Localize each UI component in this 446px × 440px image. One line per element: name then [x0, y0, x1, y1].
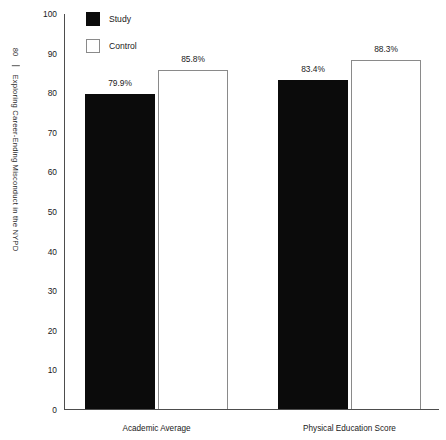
legend-label-study: Study	[109, 14, 131, 24]
legend-swatch-study	[86, 12, 100, 26]
y-axis-tick-label: 60	[31, 167, 57, 177]
y-axis-tick-label: 30	[31, 286, 57, 296]
data-label-study-0: 79.9%	[108, 78, 132, 88]
data-label-control-1: 88.3%	[374, 44, 398, 54]
y-axis-tick-label: 90	[31, 49, 57, 59]
running-head-divider	[12, 65, 20, 66]
legend-item-study: Study	[86, 12, 137, 26]
running-head: 80 Exploring Career-Ending Misconduct in…	[2, 145, 30, 395]
bar-study-0	[85, 94, 155, 410]
y-axis-tick-label: 20	[31, 326, 57, 336]
y-axis-line	[64, 14, 65, 410]
bar-control-1	[351, 60, 421, 410]
page-number: 80	[12, 48, 21, 57]
data-label-control-0: 85.8%	[181, 54, 205, 64]
legend-item-control: Control	[86, 39, 137, 53]
category-label-0: Academic Average	[122, 424, 190, 433]
bar-control-0	[158, 70, 228, 410]
y-axis-tick-label: 40	[31, 247, 57, 257]
y-axis-tick-label: 100	[31, 9, 57, 19]
legend: Study Control	[86, 12, 137, 66]
y-axis-tick-label: 10	[31, 365, 57, 375]
y-axis-tick-label: 80	[31, 88, 57, 98]
y-axis-tick-label: 50	[31, 207, 57, 217]
category-label-1: Physical Education Score	[303, 424, 396, 433]
plot-area	[64, 14, 421, 410]
bar-study-1	[278, 80, 348, 410]
running-head-title: Exploring Career-Ending Misconduct in th…	[12, 75, 21, 252]
y-axis-tick-label: 70	[31, 128, 57, 138]
x-axis-line-extension	[64, 409, 439, 410]
figure-bar-chart: 80 Exploring Career-Ending Misconduct in…	[0, 0, 446, 440]
data-label-study-1: 83.4%	[301, 64, 325, 74]
legend-swatch-control	[86, 39, 100, 53]
y-axis-tick-label: 0	[31, 405, 57, 415]
legend-label-control: Control	[109, 41, 137, 51]
